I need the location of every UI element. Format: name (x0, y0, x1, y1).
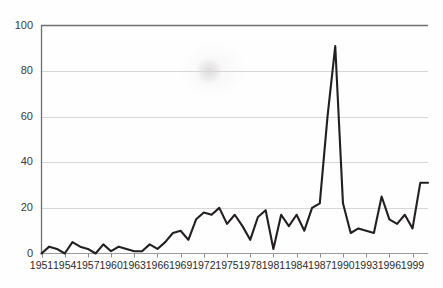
gridlines (42, 72, 429, 209)
y-tick-label: 80 (3, 65, 33, 76)
chart-canvas (0, 0, 443, 288)
y-tick-label: 20 (3, 202, 33, 213)
y-tick-label: 40 (3, 156, 33, 167)
y-tick-label: 60 (3, 111, 33, 122)
data-series-line (42, 46, 429, 253)
y-tick-label: 100 (3, 20, 33, 31)
y-tick-label: 0 (3, 248, 33, 259)
x-tick-label: 1999 (396, 260, 430, 271)
x-tick-marks (43, 254, 414, 258)
line-chart: 020406080100 195119541957196019631966196… (0, 0, 443, 288)
